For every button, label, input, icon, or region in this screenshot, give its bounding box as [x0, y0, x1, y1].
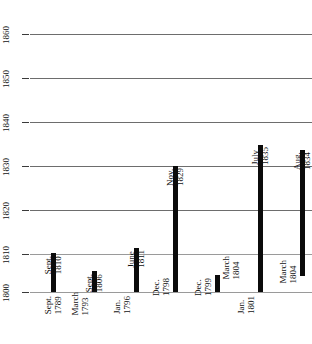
bar-7-start-label: March 1804 — [278, 260, 298, 284]
gridline-1810 — [30, 254, 312, 255]
ytick-label-1800: 1800 — [2, 284, 20, 302]
ytick-label-1850: 1850 — [2, 70, 20, 88]
gridline-1820 — [30, 210, 312, 211]
bar-1-start-label: Sept. 1789 — [43, 296, 63, 314]
bar-7-end-label: Aug. 1834 — [292, 152, 312, 170]
bar-6 — [258, 145, 263, 292]
bar-6-start-label: Jan. 1801 — [236, 296, 256, 314]
chart-canvas: 1860 1850 1840 1830 1820 1810 1800 Sept.… — [0, 0, 312, 344]
ytick-mark-1860 — [22, 34, 29, 35]
bar-1-end-label: Sept. 1810 — [43, 256, 63, 274]
bar-6-end-label: July 1835 — [250, 147, 270, 165]
ytick-mark-1820 — [22, 210, 29, 211]
ytick-label-1820: 1820 — [2, 202, 20, 220]
ytick-mark-1840 — [22, 122, 29, 123]
ytick-mark-1850 — [22, 78, 29, 79]
ytick-label-1840: 1840 — [2, 114, 20, 132]
bar-5-end-label: March 1804 — [221, 256, 241, 280]
bar-3-start-label: Jan. 1796 — [112, 296, 132, 314]
bar-2-start-label: March 1793 — [70, 292, 90, 316]
bar-5 — [215, 275, 220, 292]
ytick-mark-1830 — [22, 166, 29, 167]
bar-3-end-label: June 1811 — [126, 250, 146, 268]
ytick-mark-1800 — [22, 292, 29, 293]
ytick-label-1830: 1830 — [2, 158, 20, 176]
ytick-label-1860: 1860 — [2, 26, 20, 44]
ytick-mark-1810 — [22, 254, 29, 255]
bar-5-start-label: Dec. 1799 — [193, 278, 213, 296]
gridline-1860 — [30, 34, 312, 35]
gridline-1850 — [30, 78, 312, 79]
gridline-1830 — [30, 166, 312, 167]
gridline-1840 — [30, 122, 312, 123]
bar-2-end-label: Sept. 1806 — [84, 274, 104, 292]
bar-4-start-label: Dec. 1798 — [151, 278, 171, 296]
plot-area: Sept. 1810 Sept. 1789 Sept. 1806 March 1… — [30, 34, 312, 292]
ytick-label-1810: 1810 — [2, 246, 20, 264]
bar-4-end-label: Nov. 1829 — [165, 168, 185, 186]
